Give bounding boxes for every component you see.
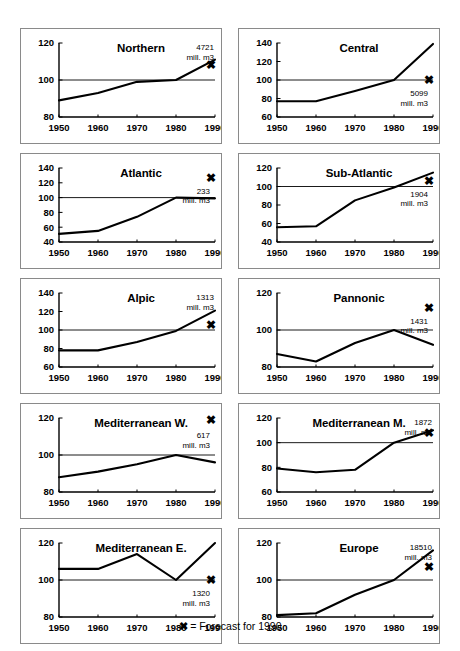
- data-line: [59, 311, 215, 351]
- chart-title: Mediterranean W.: [94, 417, 188, 429]
- chart-panel: 608010012014019501960197019801990Central…: [238, 28, 440, 144]
- y-tick-label: 120: [38, 177, 54, 188]
- x-tick-label: 1990: [422, 247, 440, 258]
- y-tick-label: 60: [261, 111, 272, 122]
- forecast-marker-icon: ✖: [206, 171, 216, 185]
- chart-title: Pannonic: [334, 292, 386, 304]
- x-tick-label: 1980: [165, 247, 186, 258]
- x-tick-label: 1950: [266, 122, 287, 133]
- y-tick-label: 80: [261, 361, 272, 372]
- x-tick-label: 1950: [48, 247, 69, 258]
- x-tick-label: 1970: [344, 372, 365, 383]
- chart-title: Europe: [339, 542, 378, 554]
- x-tick-label: 1990: [422, 497, 440, 508]
- y-tick-label: 100: [256, 574, 272, 585]
- x-tick-label: 1960: [87, 497, 108, 508]
- legend-text: Forecast for 1990: [199, 620, 281, 632]
- x-tick-label: 1970: [344, 497, 365, 508]
- y-tick-label: 40: [261, 236, 272, 247]
- x-tick-label: 1970: [126, 497, 147, 508]
- total-value-label: 1872: [414, 418, 432, 427]
- x-tick-label: 1980: [165, 372, 186, 383]
- total-value-label: 18510: [410, 543, 433, 552]
- forecast-marker-icon: ✖: [424, 560, 434, 574]
- total-value-label: 5099: [410, 89, 428, 98]
- y-tick-label: 60: [43, 222, 54, 233]
- total-unit-label: mill. m3: [186, 303, 214, 312]
- x-tick-label: 1990: [422, 122, 440, 133]
- x-tick-label: 1990: [204, 497, 222, 508]
- y-tick-label: 100: [38, 449, 54, 460]
- x-tick-label: 1970: [126, 247, 147, 258]
- x-tick-label: 1980: [383, 497, 404, 508]
- x-tick-label: 1990: [204, 247, 222, 258]
- y-tick-label: 60: [261, 218, 272, 229]
- x-tick-label: 1950: [48, 497, 69, 508]
- chart-title: Central: [340, 42, 379, 54]
- x-tick-label: 1990: [204, 372, 222, 383]
- y-tick-label: 60: [261, 486, 272, 497]
- figure-sheet: 8010012019501960197019801990Northern✖472…: [0, 0, 460, 651]
- chart-panel: 608010012019501960197019801990Mediterran…: [238, 403, 440, 519]
- chart-panel: 8010012019501960197019801990Mediterranea…: [20, 403, 222, 519]
- y-tick-label: 120: [256, 287, 272, 298]
- x-tick-label: 1950: [48, 122, 69, 133]
- x-tick-label: 1990: [422, 372, 440, 383]
- total-unit-label: mill. m3: [182, 196, 210, 205]
- forecast-marker-icon: ✖: [206, 318, 216, 332]
- x-tick-label: 1970: [126, 372, 147, 383]
- total-value-label: 1320: [192, 589, 210, 598]
- chart-title: Northern: [117, 42, 165, 54]
- y-tick-label: 100: [38, 74, 54, 85]
- x-tick-label: 1960: [87, 122, 108, 133]
- y-tick-label: 80: [43, 343, 54, 354]
- y-tick-label: 100: [256, 437, 272, 448]
- y-tick-label: 80: [261, 199, 272, 210]
- forecast-marker-icon: ✖: [424, 73, 434, 87]
- x-tick-label: 1960: [305, 372, 326, 383]
- y-tick-label: 100: [38, 574, 54, 585]
- chart-title: Mediterranean E.: [95, 542, 186, 554]
- y-tick-label: 140: [38, 162, 54, 173]
- total-unit-label: mill. m3: [400, 199, 428, 208]
- y-tick-label: 100: [38, 324, 54, 335]
- total-unit-label: mill. m3: [182, 441, 210, 450]
- chart-panel: 8010012019501960197019801990Pannonic✖143…: [238, 278, 440, 394]
- total-unit-label: mill. m3: [182, 599, 210, 608]
- x-tick-label: 1970: [344, 122, 365, 133]
- total-value-label: 1431: [410, 317, 428, 326]
- total-value-label: 617: [197, 431, 211, 440]
- x-tick-label: 1950: [266, 247, 287, 258]
- chart-panel: 40608010012019501960197019801990Sub-Atla…: [238, 153, 440, 269]
- forecast-marker-icon: ✖: [424, 174, 434, 188]
- total-value-label: 1904: [410, 190, 428, 199]
- y-tick-label: 120: [256, 537, 272, 548]
- y-tick-label: 140: [256, 37, 272, 48]
- total-unit-label: mill. m3: [400, 99, 428, 108]
- x-tick-label: 1980: [383, 247, 404, 258]
- legend-equals: =: [190, 620, 196, 632]
- x-tick-label: 1960: [305, 497, 326, 508]
- x-tick-label: 1980: [165, 497, 186, 508]
- x-tick-label: 1980: [383, 122, 404, 133]
- x-tick-label: 1960: [87, 372, 108, 383]
- data-line: [59, 455, 215, 477]
- total-value-label: 233: [197, 187, 211, 196]
- y-tick-label: 120: [38, 306, 54, 317]
- forecast-marker-icon: ✖: [424, 301, 434, 315]
- x-tick-label: 1990: [204, 122, 222, 133]
- x-tick-label: 1950: [48, 372, 69, 383]
- y-tick-label: 80: [43, 486, 54, 497]
- y-tick-label: 120: [38, 37, 54, 48]
- y-tick-label: 100: [256, 324, 272, 335]
- x-tick-label: 1970: [126, 122, 147, 133]
- y-tick-label: 80: [261, 462, 272, 473]
- forecast-marker-icon: ✖: [206, 573, 216, 587]
- x-tick-label: 1970: [344, 247, 365, 258]
- chart-title: Sub-Atlantic: [326, 167, 393, 179]
- x-tick-label: 1960: [305, 122, 326, 133]
- chart-title: Mediterranean M.: [313, 417, 406, 429]
- y-tick-label: 120: [256, 56, 272, 67]
- chart-grid: 8010012019501960197019801990Northern✖472…: [20, 28, 440, 644]
- y-tick-label: 100: [256, 181, 272, 192]
